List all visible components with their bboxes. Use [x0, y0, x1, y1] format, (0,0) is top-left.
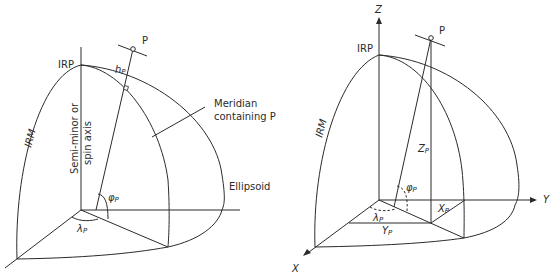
- ellipsoid-outline: [81, 65, 224, 210]
- latitude-label-right: φP: [406, 182, 418, 194]
- z-axis-arrow-icon: [376, 17, 382, 24]
- equator-curve-right: [315, 205, 515, 247]
- latitude-arc: [98, 194, 108, 219]
- irp-label-right: IRP: [357, 43, 373, 54]
- point-p-marker-right: [429, 36, 434, 41]
- axis-label-line1: Semi-minor or: [69, 102, 80, 174]
- point-p-label: P: [142, 35, 148, 46]
- z-axis-label: Z: [374, 4, 383, 15]
- y-axis-label: Y: [543, 194, 550, 205]
- zp-label: ZP: [417, 143, 430, 155]
- longitude-label-right: λP: [372, 212, 384, 224]
- xp-label: XP: [437, 203, 450, 215]
- ellipsoid-label: Ellipsoid: [229, 181, 270, 192]
- geodetic-coordinates-diagram: P IRP hP Meridian containing P IRM Semi-…: [0, 0, 553, 275]
- latitude-label: φP: [108, 192, 120, 204]
- longitude-arc-right: [370, 207, 395, 211]
- axis-label-line2: spin axis: [82, 121, 93, 165]
- irm-label: IRM: [22, 127, 38, 148]
- irp-label: IRP: [58, 59, 74, 70]
- meridian-label-line2: containing P: [214, 111, 276, 122]
- irm-curve-right: [315, 55, 379, 247]
- surface-point-marker: [124, 86, 129, 91]
- equator-curve: [17, 210, 222, 259]
- meridian-label-line1: Meridian: [214, 98, 257, 109]
- right-diagram: Z Y X P IRP IRM ZP XP YP φP λP: [291, 4, 550, 274]
- left-diagram: P IRP hP Meridian containing P IRM Semi-…: [5, 35, 276, 268]
- ellipsoid-outline-right: [379, 55, 519, 205]
- yp-label: YP: [382, 225, 393, 237]
- x-axis-label: X: [291, 263, 300, 274]
- point-p-label-right: P: [439, 25, 445, 36]
- y-axis-arrow-icon: [530, 197, 537, 203]
- x-axis: [309, 200, 379, 252]
- irm-label-right: IRM: [313, 117, 329, 138]
- longitude-label: λP: [76, 223, 88, 235]
- height-label: hP: [115, 64, 126, 76]
- longitude-arc: [72, 217, 98, 221]
- x-axis-arrow-icon: [303, 249, 311, 256]
- point-p-marker: [131, 47, 136, 52]
- meridian-foot-line: [81, 210, 168, 247]
